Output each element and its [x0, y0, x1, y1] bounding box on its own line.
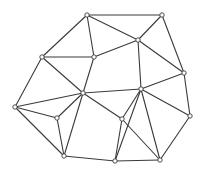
- mesh-diagram: [0, 0, 204, 178]
- node-E: [136, 38, 140, 42]
- node-A: [85, 13, 89, 17]
- node-H: [81, 91, 85, 95]
- edge-F-L: [184, 73, 190, 116]
- node-I: [139, 87, 143, 91]
- edge-B-E: [138, 15, 162, 40]
- edge-A-E: [87, 15, 138, 40]
- edge-L-O: [160, 116, 190, 160]
- node-layer: [13, 13, 192, 163]
- edge-B-F: [162, 15, 184, 73]
- node-F: [182, 71, 186, 75]
- node-N: [113, 159, 117, 163]
- edge-I-L: [141, 89, 190, 116]
- edge-G-J: [15, 107, 57, 118]
- edge-N-O: [115, 160, 160, 161]
- edge-A-C: [42, 15, 87, 57]
- edge-D-E: [94, 40, 138, 57]
- node-B: [160, 13, 164, 17]
- node-J: [55, 116, 59, 120]
- edge-A-D: [87, 15, 94, 57]
- node-D: [92, 55, 96, 59]
- edge-C-H: [42, 57, 83, 93]
- node-M: [62, 154, 66, 158]
- edge-K-N: [115, 119, 122, 161]
- node-K: [120, 117, 124, 121]
- edge-C-G: [15, 57, 42, 107]
- edge-F-I: [141, 73, 184, 89]
- edge-G-M: [15, 107, 64, 156]
- edge-M-N: [64, 156, 115, 161]
- edge-layer: [15, 15, 190, 161]
- node-O: [158, 158, 162, 162]
- edge-E-F: [138, 40, 184, 73]
- edge-D-H: [83, 57, 94, 93]
- edge-H-I: [83, 89, 141, 93]
- node-C: [40, 55, 44, 59]
- node-L: [188, 114, 192, 118]
- edge-H-K: [83, 93, 122, 119]
- edge-E-I: [138, 40, 141, 89]
- node-G: [13, 105, 17, 109]
- edge-G-H: [15, 93, 83, 107]
